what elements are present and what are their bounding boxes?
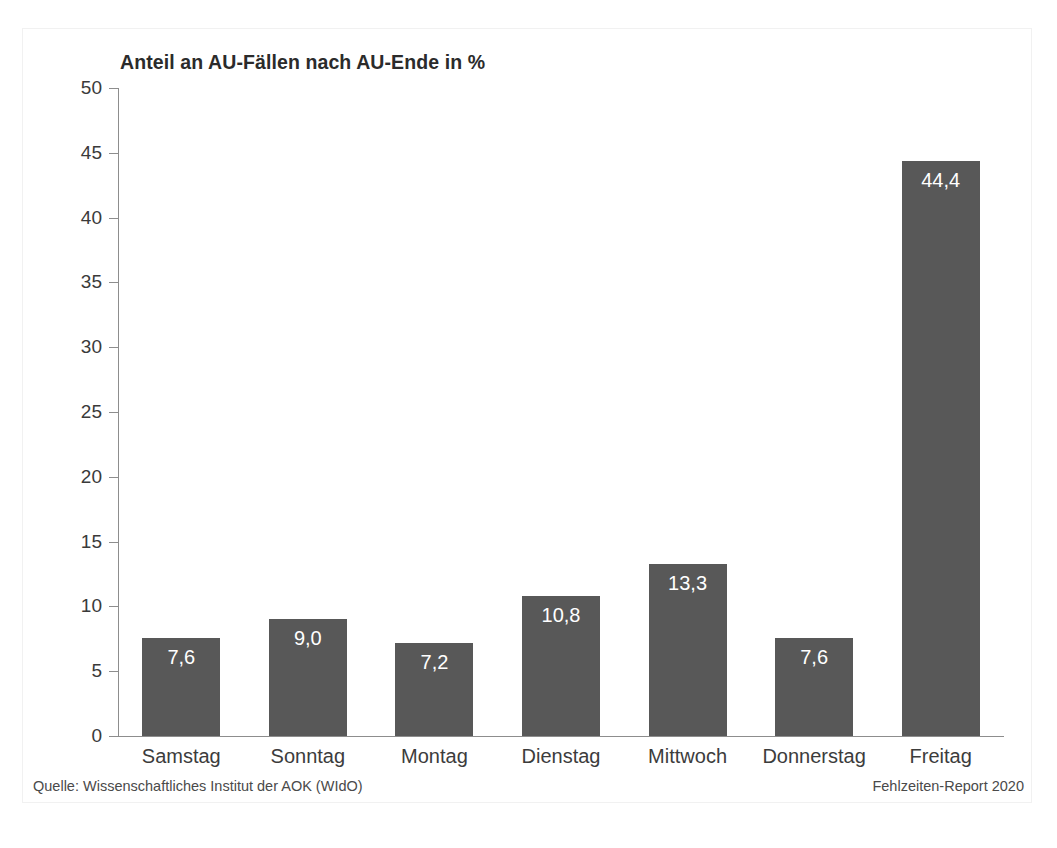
y-axis-tick-label: 40 (44, 207, 102, 229)
bar-value-label: 9,0 (269, 627, 347, 650)
bar[interactable] (902, 161, 980, 736)
bar-value-label: 10,8 (522, 604, 600, 627)
y-axis-tick (109, 153, 118, 154)
bar-value-label: 44,4 (902, 169, 980, 192)
y-axis-tick (109, 542, 118, 543)
y-axis-tick-label: 45 (44, 142, 102, 164)
y-axis-tick (109, 347, 118, 348)
source-note: Quelle: Wissenschaftliches Institut der … (33, 778, 363, 794)
y-axis-tick (109, 477, 118, 478)
y-axis-tick-label: 30 (44, 336, 102, 358)
bar-value-label: 7,2 (395, 651, 473, 674)
y-axis-tick (109, 282, 118, 283)
x-axis-label: Montag (371, 745, 498, 768)
x-axis-label: Donnerstag (751, 745, 878, 768)
y-axis-tick (109, 671, 118, 672)
bar-value-label: 13,3 (649, 572, 727, 595)
y-axis-tick-label: 15 (44, 531, 102, 553)
report-note: Fehlzeiten-Report 2020 (872, 778, 1024, 794)
x-axis-label: Mittwoch (624, 745, 751, 768)
figure-container: Anteil an AU-Fällen nach AU-Ende in % 05… (0, 0, 1057, 848)
x-axis-label: Dienstag (498, 745, 625, 768)
y-axis-tick-label: 5 (44, 660, 102, 682)
y-axis-tick (109, 736, 118, 737)
y-axis-line (118, 88, 119, 737)
bar-value-label: 7,6 (142, 646, 220, 669)
chart-title: Anteil an AU-Fällen nach AU-Ende in % (120, 51, 485, 74)
y-axis-tick-label: 50 (44, 77, 102, 99)
x-axis-label: Samstag (118, 745, 245, 768)
y-axis-tick-label: 0 (44, 725, 102, 747)
y-axis-tick-label: 10 (44, 595, 102, 617)
bar-value-label: 7,6 (775, 646, 853, 669)
x-axis-label: Freitag (877, 745, 1004, 768)
y-axis-tick-label: 20 (44, 466, 102, 488)
y-axis-tick (109, 88, 118, 89)
x-axis-line (118, 736, 1004, 737)
y-axis-tick (109, 412, 118, 413)
x-axis-label: Sonntag (245, 745, 372, 768)
y-axis-tick-label: 35 (44, 271, 102, 293)
y-axis-tick (109, 606, 118, 607)
y-axis-tick (109, 218, 118, 219)
y-axis-tick-label: 25 (44, 401, 102, 423)
